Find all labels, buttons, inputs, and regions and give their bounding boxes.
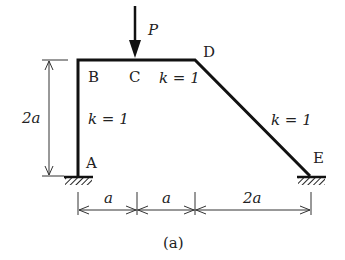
- height-dimension-label: 2a: [21, 109, 41, 127]
- fixed-support-a-icon: [64, 177, 93, 185]
- vertical-dimension: [42, 60, 68, 176]
- node-label-c: C: [129, 68, 140, 86]
- load-label: P: [147, 21, 159, 39]
- stiffness-label-de: k = 1: [271, 111, 312, 129]
- figure-caption: (a): [163, 234, 184, 252]
- frame-diagram: P B C D A E k = 1 k = 1 k = 1 2a a a 2a …: [0, 0, 345, 260]
- node-label-a: A: [85, 154, 97, 172]
- stiffness-label-ab: k = 1: [88, 110, 129, 128]
- dimension-label-ab-c: a: [104, 189, 113, 207]
- load-arrow-icon: [129, 6, 141, 58]
- dimension-label-d-e: 2a: [242, 189, 262, 207]
- node-label-e: E: [313, 149, 324, 167]
- dimension-label-c-d: a: [162, 189, 171, 207]
- node-label-b: B: [88, 68, 99, 86]
- stiffness-label-bd: k = 1: [159, 69, 200, 87]
- node-label-d: D: [203, 43, 215, 61]
- fixed-support-e-icon: [297, 177, 326, 185]
